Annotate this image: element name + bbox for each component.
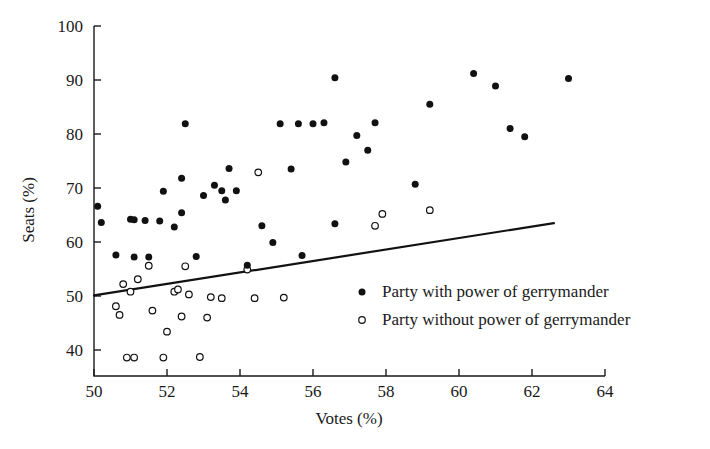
chart-canvas: 5052545658606264 405060708090100 Votes (…: [0, 0, 710, 449]
data-point-without-power-4: [127, 288, 134, 295]
data-point-without-power-16: [197, 354, 204, 361]
data-point-with-power-10: [171, 223, 178, 230]
data-point-without-power-1: [116, 312, 123, 319]
x-tick-label-54: 54: [232, 382, 250, 401]
data-point-with-power-42: [565, 75, 572, 82]
y-axis-label: Seats (%): [19, 177, 38, 243]
data-point-with-power-6: [142, 217, 149, 224]
data-point-with-power-0: [94, 203, 101, 210]
y-tick-label-50: 50: [66, 287, 83, 306]
data-point-with-power-36: [412, 181, 419, 188]
data-point-without-power-2: [120, 281, 127, 288]
x-tick-label-50: 50: [86, 382, 103, 401]
data-point-with-power-19: [226, 165, 233, 172]
data-point-with-power-35: [372, 119, 379, 126]
data-point-without-power-12: [175, 286, 182, 293]
data-point-with-power-27: [299, 252, 306, 259]
y-tick-label-70: 70: [66, 179, 83, 198]
x-tick-label-62: 62: [524, 382, 541, 401]
y-axis-tick-labels: 405060708090100: [58, 17, 84, 360]
data-point-without-power-8: [149, 307, 156, 314]
data-point-without-power-3: [124, 354, 131, 361]
data-point-with-power-1: [98, 219, 105, 226]
data-point-without-power-13: [178, 313, 185, 320]
legend-label-1: Party without power of gerrymander: [382, 310, 631, 329]
data-point-without-power-26: [427, 207, 434, 214]
data-point-with-power-17: [218, 187, 225, 194]
data-point-with-power-4: [131, 216, 138, 223]
data-point-with-power-40: [507, 125, 514, 132]
data-point-with-power-22: [258, 222, 265, 229]
data-point-with-power-20: [233, 187, 240, 194]
data-point-with-power-21: [244, 262, 251, 269]
data-point-with-power-33: [353, 132, 360, 139]
data-point-with-power-29: [320, 119, 327, 126]
data-point-without-power-5: [131, 354, 138, 361]
data-point-with-power-8: [156, 217, 163, 224]
data-point-without-power-24: [372, 223, 379, 230]
data-point-with-power-18: [222, 196, 229, 203]
x-axis-tick-labels: 5052545658606264: [86, 382, 615, 401]
data-point-with-power-16: [211, 182, 218, 189]
data-point-with-power-2: [112, 251, 119, 258]
x-tick-label-56: 56: [305, 382, 322, 401]
data-point-with-power-26: [295, 120, 302, 127]
x-tick-label-52: 52: [159, 382, 176, 401]
data-point-without-power-14: [182, 263, 189, 270]
data-point-with-power-24: [277, 120, 284, 127]
x-axis-label: Votes (%): [315, 409, 382, 428]
data-point-without-power-0: [113, 303, 120, 310]
data-point-with-power-38: [470, 70, 477, 77]
data-point-with-power-28: [310, 120, 317, 127]
data-point-with-power-11: [178, 175, 185, 182]
data-point-with-power-39: [492, 82, 499, 89]
data-point-without-power-18: [208, 294, 215, 301]
data-point-with-power-41: [521, 133, 528, 140]
data-point-with-power-34: [364, 147, 371, 154]
x-tick-label-64: 64: [597, 382, 615, 401]
series-party-with-power-points: [94, 70, 572, 269]
data-point-without-power-6: [135, 276, 142, 283]
data-point-without-power-17: [204, 314, 211, 321]
data-point-with-power-31: [331, 220, 338, 227]
data-point-with-power-12: [178, 209, 185, 216]
x-tick-label-60: 60: [451, 382, 468, 401]
data-point-with-power-15: [200, 192, 207, 199]
series-party-without-power-points: [113, 169, 434, 361]
data-point-without-power-7: [145, 262, 152, 269]
data-point-with-power-25: [288, 166, 295, 173]
data-point-with-power-32: [342, 159, 349, 166]
scatter-plot-figure: 5052545658606264 405060708090100 Votes (…: [0, 0, 710, 449]
legend: Party with power of gerrymanderParty wit…: [359, 282, 631, 329]
y-tick-label-90: 90: [66, 71, 83, 90]
data-point-with-power-9: [160, 188, 167, 195]
x-tick-label-58: 58: [378, 382, 395, 401]
legend-label-0: Party with power of gerrymander: [382, 282, 609, 301]
y-tick-label-40: 40: [66, 341, 83, 360]
data-point-with-power-23: [269, 239, 276, 246]
y-tick-label-60: 60: [66, 233, 83, 252]
legend-marker-open: [359, 317, 366, 324]
legend-marker-filled: [359, 289, 366, 296]
data-point-without-power-22: [255, 169, 262, 176]
data-point-without-power-23: [281, 294, 288, 301]
data-point-without-power-19: [218, 295, 225, 302]
data-point-with-power-30: [331, 74, 338, 81]
data-point-without-power-9: [160, 354, 167, 361]
data-point-with-power-13: [182, 120, 189, 127]
data-point-without-power-21: [251, 295, 258, 302]
data-point-with-power-5: [131, 254, 138, 261]
data-point-with-power-14: [193, 253, 200, 260]
data-point-without-power-25: [379, 211, 386, 218]
data-point-without-power-15: [186, 291, 193, 298]
data-point-without-power-10: [164, 328, 171, 335]
data-point-with-power-37: [426, 101, 433, 108]
data-point-with-power-7: [145, 254, 152, 261]
y-tick-label-100: 100: [58, 17, 84, 36]
y-tick-label-80: 80: [66, 125, 83, 144]
